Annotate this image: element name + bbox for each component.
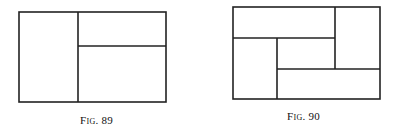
- outer-rectangle: [19, 12, 166, 102]
- figure-90-diagram: [233, 7, 380, 99]
- figure-90-caption: Fig. 90: [287, 110, 320, 122]
- figures-canvas: [0, 0, 397, 128]
- figure-89-diagram: [19, 12, 166, 102]
- figure-89-caption: Fig. 89: [80, 114, 113, 126]
- outer-rectangle: [233, 7, 380, 99]
